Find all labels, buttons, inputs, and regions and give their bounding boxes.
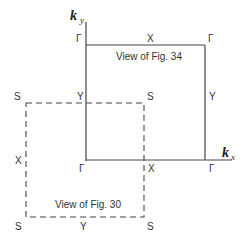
point-s-top-right: S: [147, 91, 154, 102]
point-gamma-top-right: Γ: [208, 33, 214, 44]
point-gamma-bottom-right: Γ: [209, 163, 215, 174]
point-s-bottom-right: S: [147, 221, 154, 232]
point-y-bottom: Y: [80, 221, 87, 232]
point-x-mid-left: X: [15, 155, 22, 166]
point-y-mid-left: Y: [77, 91, 84, 102]
point-s-top-left: S: [14, 91, 21, 102]
point-x-bottom: X: [148, 163, 155, 174]
point-gamma-top-left: Γ: [76, 33, 82, 44]
caption-fig34: View of Fig. 34: [116, 51, 182, 62]
kx-subscript: x: [230, 152, 235, 162]
ky-label: k: [70, 8, 77, 23]
kx-label: k: [222, 145, 229, 160]
brillouin-zone-diagram: k y k x Γ X Γ View of Fig. 34 Y Y Γ X Γ …: [0, 0, 247, 239]
point-gamma-bottom-left: Γ: [79, 163, 85, 174]
caption-fig30: View of Fig. 30: [55, 199, 121, 210]
ky-subscript: y: [79, 15, 84, 25]
point-y-mid-right: Y: [209, 91, 216, 102]
point-s-bottom-left: S: [15, 221, 22, 232]
point-x-top: X: [147, 33, 154, 44]
